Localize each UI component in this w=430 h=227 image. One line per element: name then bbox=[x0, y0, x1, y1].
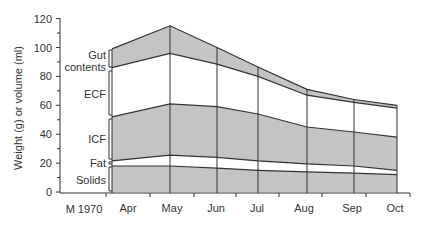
x-tick-label-jun: Jun bbox=[207, 202, 225, 214]
y-tick-label: 60 bbox=[40, 99, 52, 111]
x-ticks: AprMayJunJulAugSepOct bbox=[106, 193, 410, 214]
y-ticks: 020406080100120 bbox=[34, 13, 60, 198]
legend-fat-label: Fat bbox=[90, 157, 106, 169]
y-tick-label: 120 bbox=[34, 13, 52, 25]
y-tick-label: 100 bbox=[34, 42, 52, 54]
stacked-area-chart: 020406080100120 AprMayJunJulAugSepOct We… bbox=[0, 0, 430, 227]
legend-ecf-label: ECF bbox=[84, 88, 106, 100]
x-tick-label-may: May bbox=[162, 202, 183, 214]
x-tick-label-apr: Apr bbox=[119, 202, 136, 214]
legend-gut-label-2: contents bbox=[64, 61, 106, 73]
y-tick-label: 20 bbox=[40, 157, 52, 169]
x-tick-label-oct: Oct bbox=[386, 202, 403, 214]
y-axis-label: Weight (g) or volume (ml) bbox=[12, 46, 24, 170]
y-tick-label: 80 bbox=[40, 70, 52, 82]
y-tick-label: 0 bbox=[46, 186, 52, 198]
legend-icf-label: ICF bbox=[88, 133, 106, 145]
chart-areas bbox=[112, 26, 397, 193]
legend-solids-label: Solids bbox=[76, 174, 106, 186]
x-start-label: M 1970 bbox=[66, 203, 103, 215]
legend-gut-label-1: Gut bbox=[88, 49, 106, 61]
y-tick-label: 40 bbox=[40, 128, 52, 140]
x-tick-label-sep: Sep bbox=[342, 202, 362, 214]
x-tick-label-jul: Jul bbox=[250, 202, 264, 214]
x-tick-label-aug: Aug bbox=[294, 202, 314, 214]
